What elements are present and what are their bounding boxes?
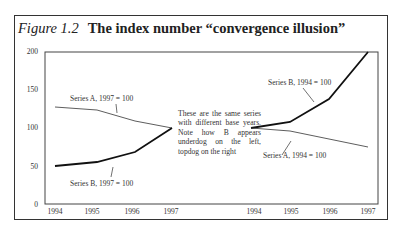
series-b-left-line <box>55 128 172 166</box>
label-series-b-right: Series B, 1994 = 100 <box>268 78 331 87</box>
series-a-right-line <box>251 128 368 147</box>
label-series-a-left: Series A, 1997 = 100 <box>70 94 133 103</box>
x-tick: 1997 <box>164 207 179 216</box>
series-b-right-line <box>251 52 368 128</box>
leader-line <box>303 88 314 102</box>
x-tick: 1994 <box>247 207 262 216</box>
x-tick: 1995 <box>85 207 100 216</box>
x-tick: 1996 <box>323 207 338 216</box>
label-series-b-left: Series B, 1997 = 100 <box>70 179 133 188</box>
x-tick: 1996 <box>125 207 140 216</box>
y-tick: 150 <box>27 85 39 94</box>
series-a-left-line <box>55 107 172 128</box>
y-tick: 100 <box>27 123 39 132</box>
x-tick: 1997 <box>361 207 376 216</box>
y-tick: 50 <box>31 162 39 171</box>
label-series-a-right: Series A, 1994 = 100 <box>263 151 326 160</box>
x-tick: 1994 <box>48 207 63 216</box>
y-tick: 200 <box>27 47 39 56</box>
x-tick: 1995 <box>284 207 299 216</box>
leader-line <box>116 104 117 113</box>
leader-line <box>111 167 113 177</box>
annotation-text: These are the same series with different… <box>178 109 261 156</box>
y-tick: 0 <box>34 200 38 209</box>
